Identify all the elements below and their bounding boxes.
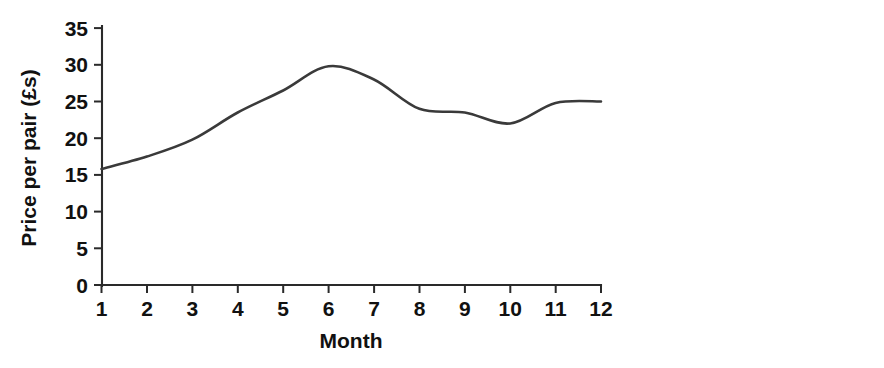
x-tick-label-12: 12	[589, 297, 612, 320]
y-axis-ticks	[94, 28, 102, 285]
x-tick-label-6: 6	[323, 297, 335, 320]
y-tick-label-25: 25	[65, 90, 89, 113]
y-tick-label-10: 10	[65, 200, 88, 223]
x-tick-label-7: 7	[368, 297, 380, 320]
y-tick-label-0: 0	[76, 274, 88, 297]
x-tick-label-5: 5	[277, 297, 289, 320]
y-axis-title: Price per pair (£s)	[17, 69, 40, 246]
y-tick-label-20: 20	[65, 127, 88, 150]
y-tick-label-30: 30	[65, 53, 88, 76]
x-tick-label-8: 8	[414, 297, 426, 320]
x-tick-label-11: 11	[545, 297, 568, 320]
x-tick-label-9: 9	[459, 297, 471, 320]
y-tick-label-5: 5	[76, 237, 88, 260]
y-tick-label-15: 15	[65, 163, 89, 186]
line-chart: 0 5 10 15 20 25 30 35 1 2 3 4 5 6 7 8 9 …	[0, 0, 884, 368]
x-tick-label-3: 3	[187, 297, 199, 320]
x-tick-label-1: 1	[96, 297, 108, 320]
x-axis-title: Month	[320, 329, 383, 352]
y-tick-label-35: 35	[65, 17, 89, 40]
x-tick-label-10: 10	[499, 297, 522, 320]
price-per-pair-line	[102, 66, 602, 169]
x-tick-label-4: 4	[232, 297, 244, 320]
chart-canvas: 0 5 10 15 20 25 30 35 1 2 3 4 5 6 7 8 9 …	[0, 0, 884, 368]
x-tick-label-2: 2	[141, 297, 153, 320]
x-axis-ticks	[102, 285, 602, 293]
